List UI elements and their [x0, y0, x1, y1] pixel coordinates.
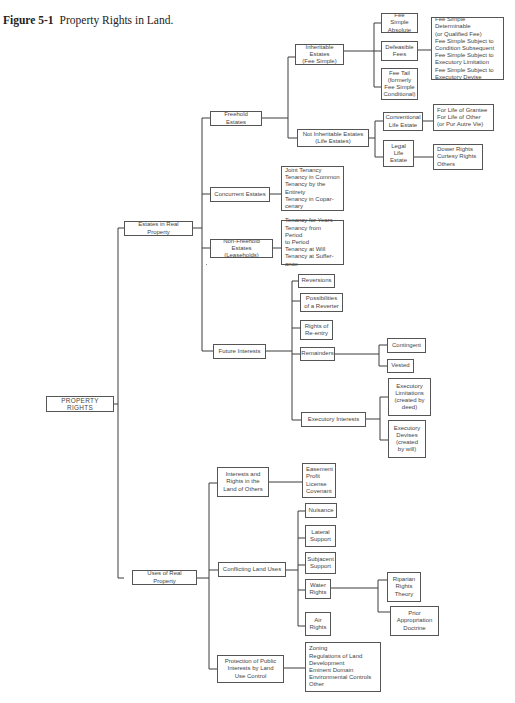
node-freehold-estates: Freehold Estates: [210, 111, 262, 126]
node-interests-rights-land-of-others: Interests and Rights in the Land of Othe…: [217, 467, 269, 497]
node-vested: Vested: [387, 359, 414, 373]
node-subjacent-support: Subjacent Support: [305, 552, 336, 574]
node-rights-of-reentry: Rights of Re-entry: [300, 320, 333, 340]
node-not-inheritable-estates: Not Inheritable Estates (Life Estates): [297, 129, 369, 147]
node-legal-life-estate: Legal Life Estate: [383, 140, 414, 167]
node-executory-devises: Executory Devises (created by will): [388, 420, 426, 458]
stray-mark: [206, 264, 207, 265]
node-conventional-life-estate-types: For Life of Grantee For Life of Other (o…: [433, 104, 494, 131]
node-prior-appropriation-doctrine: Prior Appropriation Doctrine: [390, 606, 439, 636]
node-defeasible-fees: Defeasible Fees: [381, 41, 418, 61]
node-future-interests: Future Interests: [213, 344, 266, 359]
node-land-use-control-types: Zoning Regulations of Land Development E…: [305, 642, 381, 692]
node-defeasible-fee-types: Fee Simple Determinable (or Qualified Fe…: [431, 17, 504, 80]
node-lateral-support: Lateral Support: [305, 525, 336, 547]
node-executory-limitations: Executory Limitations (created by deed): [388, 378, 431, 416]
node-fee-simple-absolute: Fee Simple Absolute: [381, 13, 418, 33]
node-remainders: Remainders: [300, 347, 335, 361]
node-riparian-rights-theory: Riparian Rights Theory: [387, 572, 421, 602]
node-possibilities-of-reverter: Possibilities of a Reverter: [300, 293, 343, 312]
node-concurrent-estate-types: Joint Tenancy Tenancy in Common Tenancy …: [281, 166, 344, 211]
node-inheritable-estates: Inheritable Estates (Fee Simple): [295, 44, 344, 65]
node-conventional-life-estate: Conventional Life Estate: [383, 112, 423, 131]
node-estates-in-real-property: Estates in Real Property: [124, 221, 193, 236]
node-contingent: Contingent: [387, 338, 426, 353]
node-conflicting-land-uses: Conflicting Land Uses: [218, 562, 286, 577]
node-water-rights: Water Rights: [305, 579, 331, 599]
node-uses-of-real-property: Uses of Real Property: [132, 570, 197, 585]
node-protection-of-public-interests: Protection of Public Interests by Land U…: [217, 655, 284, 683]
node-fee-tail: Fee Tail (formerly Fee Simple Conditiona…: [381, 68, 418, 100]
node-air-rights: Air Rights: [305, 612, 331, 636]
node-legal-life-estate-types: Dower Rights Curtesy Rights Others: [433, 144, 483, 170]
node-reversions: Reversions: [298, 274, 335, 288]
node-executory-interests: Executory Interests: [301, 412, 366, 427]
node-nuisance: Nuisance: [305, 503, 337, 518]
node-non-freehold-estates: Non-Freehold Estates (Leaseholds): [210, 239, 273, 258]
node-non-freehold-estate-types: Tenancy for Years Tenancy from Period to…: [281, 220, 344, 265]
node-property-rights: PROPERTY RIGHTS: [46, 396, 114, 412]
node-concurrent-estates: Concurrent Estates: [210, 187, 270, 202]
node-interests-rights-types: Easement Profit License Covenant: [302, 463, 336, 498]
